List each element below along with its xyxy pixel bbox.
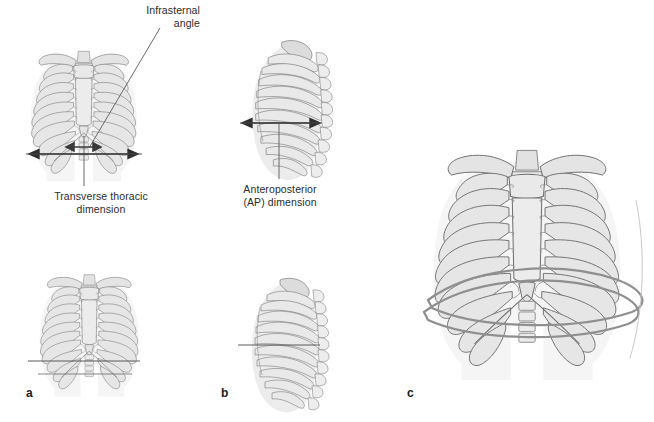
anatomy-illustration <box>0 0 654 422</box>
panel-b-top-illustration <box>252 41 332 180</box>
panel-letter-b: b <box>221 386 228 400</box>
cropped-caption-sliver <box>0 414 654 422</box>
panel-letter-c: c <box>407 386 414 400</box>
panel-letter-a: a <box>26 386 33 400</box>
panel-a-bottom-illustration <box>40 275 139 397</box>
panel-c-illustration <box>434 150 621 380</box>
figure-root: Infrasternal angle Transverse thoracic d… <box>0 0 654 422</box>
